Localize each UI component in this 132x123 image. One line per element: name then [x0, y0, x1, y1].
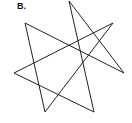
heptagram-star-icon: [0, 0, 132, 123]
heptagram-outline: [14, 1, 124, 112]
figure-canvas: B.: [0, 0, 132, 123]
